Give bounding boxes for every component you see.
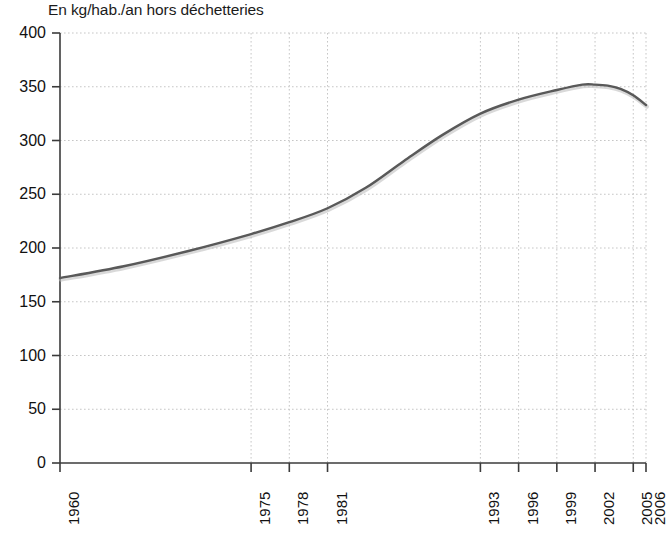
y-axis-label-0: 0	[0, 455, 46, 471]
x-axis-label-1999: 1999	[563, 492, 578, 525]
series-line-ordures-m-nag-res	[60, 84, 646, 278]
y-axis-ticks	[52, 33, 60, 463]
x-axis-label-1993: 1993	[486, 492, 501, 525]
x-axis-label-1996: 1996	[525, 492, 540, 525]
x-axis-ticks	[60, 463, 646, 472]
y-axis-label-200: 200	[0, 240, 46, 256]
y-axis-label-400: 400	[0, 25, 46, 41]
x-axis-label-2002: 2002	[601, 492, 616, 525]
data-series-group	[60, 84, 647, 280]
x-axis-label-1975: 1975	[257, 492, 272, 525]
gridlines	[60, 33, 646, 463]
y-axis-label-150: 150	[0, 294, 46, 310]
y-axis-label-100: 100	[0, 348, 46, 364]
y-axis-label-250: 250	[0, 186, 46, 202]
x-axis-label-1960: 1960	[66, 492, 81, 525]
x-axis-label-1981: 1981	[334, 492, 349, 525]
x-axis-label-1978: 1978	[295, 492, 310, 525]
series-line-shadow-0	[61, 86, 647, 280]
y-axis-label-350: 350	[0, 79, 46, 95]
y-axis-label-300: 300	[0, 133, 46, 149]
x-axis-label-2006: 2006	[652, 492, 667, 525]
y-axis-label-50: 50	[0, 401, 46, 417]
